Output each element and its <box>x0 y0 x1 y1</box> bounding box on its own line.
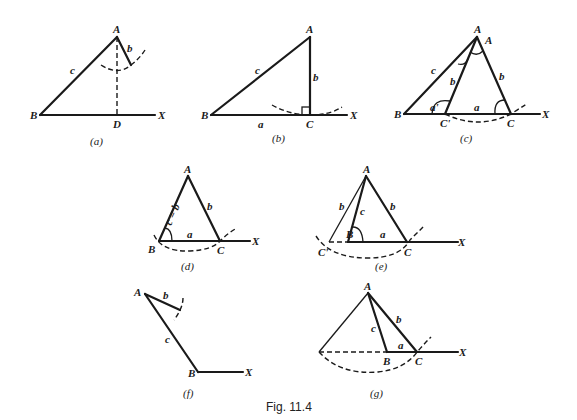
label-X: X <box>349 109 358 121</box>
subcaption-f: (f) <box>183 387 194 400</box>
label-b: b <box>396 313 402 325</box>
label-a: a <box>398 339 404 351</box>
figure-g: A B C X a b c (g) <box>319 280 467 400</box>
subcaption-a: (a) <box>90 135 103 148</box>
label-D: D <box>112 118 121 130</box>
label-A: A <box>305 23 313 35</box>
label-b: b <box>127 42 133 54</box>
figure-f: A B X b c (f) <box>133 286 253 400</box>
label-B: B <box>393 108 401 120</box>
label-X: X <box>457 236 466 248</box>
angle-C-mark <box>495 100 505 114</box>
side-b-swing <box>319 293 368 352</box>
label-X: X <box>157 109 166 121</box>
figure-a: A B D X c b (a) <box>29 23 166 148</box>
label-b-left: b <box>339 200 345 212</box>
label-A: A <box>473 23 481 35</box>
label-C-prime: C' <box>440 117 450 129</box>
label-b: b <box>207 200 213 212</box>
subcaption-g: (g) <box>370 387 383 400</box>
label-B: B <box>200 109 208 121</box>
side-b <box>188 176 220 241</box>
label-C: C <box>404 246 412 258</box>
figure-d: A B C X a b c = b (d) <box>147 163 260 273</box>
label-c: c <box>431 64 436 76</box>
arc <box>101 50 145 71</box>
label-b: b <box>163 289 169 301</box>
label-C: C <box>217 244 225 256</box>
label-b: b <box>313 71 319 83</box>
subcaption-b: (b) <box>272 132 285 145</box>
figure-c: A A B C' C X a a' b b c (c) <box>393 23 550 145</box>
arc <box>154 228 237 251</box>
figure-e: A B C C' X a b b c (e) <box>316 163 466 273</box>
label-B: B <box>187 367 195 379</box>
label-a-prime: a' <box>430 101 439 113</box>
label-C: C <box>507 117 515 129</box>
label-b-right: b <box>390 200 396 212</box>
side-b-ac <box>477 37 511 114</box>
label-A: A <box>133 286 141 298</box>
figure-b: A B C X a b c (b) <box>200 23 358 145</box>
label-X: X <box>244 366 253 378</box>
label-B: B <box>345 228 353 240</box>
label-X: X <box>251 235 260 247</box>
label-A-angle: A <box>484 34 492 46</box>
label-B: B <box>29 109 37 121</box>
side-b-ac <box>366 176 407 242</box>
label-a: a <box>380 228 386 240</box>
label-X: X <box>458 346 467 358</box>
side-c <box>404 37 477 114</box>
label-A: A <box>112 23 120 35</box>
label-a: a <box>258 118 264 130</box>
label-c: c <box>255 64 260 76</box>
angle-B-mark <box>165 228 172 241</box>
label-A: A <box>363 280 371 292</box>
right-angle-mark <box>302 107 310 115</box>
subcaption-d: (d) <box>181 260 194 273</box>
label-C-prime: C' <box>318 246 328 258</box>
label-a: a <box>187 228 193 240</box>
label-C: C <box>306 118 314 130</box>
label-A: A <box>362 163 370 175</box>
label-B: B <box>382 355 390 367</box>
label-c-eq-b: c = b <box>162 201 182 227</box>
label-c: c <box>360 205 365 217</box>
subcaption-e: (e) <box>375 260 388 273</box>
figure-canvas: A B D X c b (a) A B C X a b c (b) A A B <box>0 0 577 420</box>
label-b-right: b <box>499 70 505 82</box>
side-c <box>40 37 117 115</box>
figure-caption: Fig. 11.4 <box>266 400 312 414</box>
label-a: a <box>474 101 480 113</box>
side-c <box>211 37 310 115</box>
label-c: c <box>165 333 170 345</box>
label-X: X <box>541 108 550 120</box>
label-B: B <box>147 243 155 255</box>
label-c: c <box>70 64 75 76</box>
label-C: C <box>415 355 423 367</box>
subcaption-c: (c) <box>460 132 473 145</box>
angle-B-mark <box>353 227 363 242</box>
label-b-left: b <box>450 75 456 87</box>
label-c: c <box>371 322 376 334</box>
label-A: A <box>183 163 191 175</box>
